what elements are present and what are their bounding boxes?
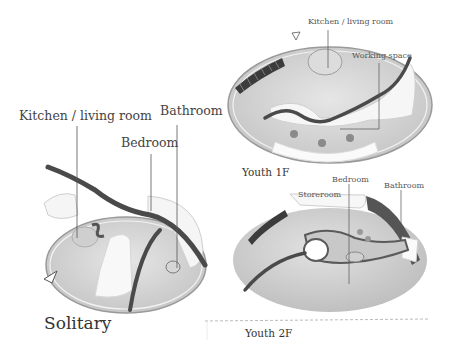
label-youth2f-bathroom: Bathroom <box>384 181 424 190</box>
label-youth1f-kitchen: Kitchen / living room <box>308 17 393 26</box>
label-solitary-bedroom: Bedroom <box>121 135 178 150</box>
label-solitary-kitchen: Kitchen / living room <box>19 108 152 123</box>
title-youth-1f: Youth 1F <box>242 166 289 178</box>
youth-2f-model <box>233 194 427 312</box>
solitary-model <box>44 167 206 313</box>
label-youth2f-bedroom: Bedroom <box>332 175 369 184</box>
separator-dashed <box>205 319 430 321</box>
title-youth-2f: Youth 2F <box>245 327 292 339</box>
label-youth1f-working: Working space <box>352 51 412 60</box>
label-solitary-bathroom: Bathroom <box>160 103 223 118</box>
title-solitary: Solitary <box>44 313 111 333</box>
label-youth2f-storeroom: Storeroom <box>298 190 341 199</box>
